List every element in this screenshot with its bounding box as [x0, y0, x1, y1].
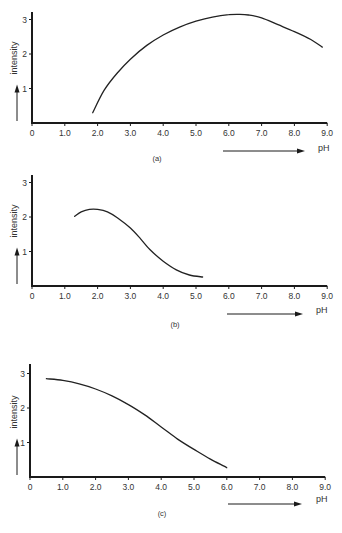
x-tick-label: 9.0: [319, 482, 331, 492]
x-tick-label: 7.0: [254, 482, 266, 492]
x-tick-label: 6.0: [221, 482, 233, 492]
x-tick-label: 0: [28, 482, 33, 492]
y-tick-label: 1: [20, 438, 25, 448]
y-tick-label: 3: [20, 369, 25, 379]
x-tick-label: 8.0: [286, 482, 298, 492]
x-tick-label: 5.0: [188, 482, 200, 492]
x-tick-label: 4.0: [155, 482, 167, 492]
x-axis-title: pH: [316, 494, 328, 504]
arrow-right-icon: [294, 502, 302, 507]
x-tick-label: 3.0: [122, 482, 134, 492]
chart-caption: (c): [158, 509, 167, 518]
x-tick-label: 1.0: [57, 482, 69, 492]
y-tick-label: 2: [20, 403, 25, 413]
chart-svg-c: 01.02.03.04.05.06.07.08.09.0123intensity…: [0, 0, 342, 533]
chart-panel-c: 01.02.03.04.05.06.07.08.09.0123intensity…: [0, 0, 342, 533]
y-axis-title: intensity: [9, 395, 19, 429]
arrow-up-icon: [15, 439, 20, 447]
x-tick-label: 2.0: [90, 482, 102, 492]
intensity-curve: [46, 379, 226, 468]
